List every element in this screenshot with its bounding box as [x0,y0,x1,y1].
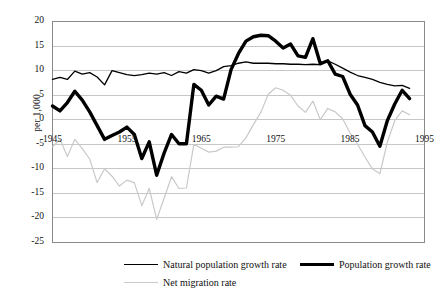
legend-swatch-line-icon [300,263,334,266]
legend-item-population-growth-rate: Population growth rate [300,259,431,270]
chart-legend: Natural population growth rate Populatio… [0,258,446,292]
x-axis-tick-label: 1965 [184,134,218,144]
y-axis-tick-label: 5 [16,89,44,99]
x-axis-tick-label: 1975 [259,134,293,144]
legend-item-net-migration-rate: Net migration rate [124,277,236,288]
legend-swatch-line-icon [124,282,158,283]
x-axis-tick-label: 1945 [36,134,70,144]
y-axis-tick-label: -25 [16,236,44,246]
chart-figure: per 1,000 20151050-5-10-15-20-25 1945195… [0,0,446,305]
x-axis-tick-label: 1985 [333,134,367,144]
legend-item-natural-population-growth-rate: Natural population growth rate [124,259,287,270]
x-axis-tick-label: 1995 [408,134,442,144]
legend-item-label: Net migration rate [163,277,236,288]
y-axis-tick-label: 0 [16,113,44,123]
legend-item-label: Natural population growth rate [163,259,287,270]
y-axis-tick-label: 20 [16,15,44,25]
y-axis-tick-label: 15 [16,40,44,50]
y-axis-tick-label: -20 [16,211,44,221]
y-axis-tick-label: 10 [16,64,44,74]
y-axis-tick-label: -15 [16,187,44,197]
legend-item-label: Population growth rate [339,259,431,270]
legend-swatch-line-icon [124,264,158,265]
y-axis-tick-label: -10 [16,162,44,172]
x-axis-tick-label: 1955 [110,134,144,144]
